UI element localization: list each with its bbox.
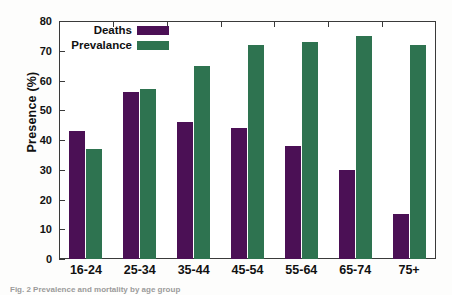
y-tick-label: 10 [22,223,52,235]
bars-layer [59,21,436,259]
bar-deaths-35-44 [177,122,193,259]
bar-deaths-45-54 [231,128,247,259]
y-tick-label: 70 [22,45,52,57]
bar-prevalance-25-34 [140,89,156,259]
legend-item-prevalence: Prevalance [64,39,169,51]
legend-label-deaths: Deaths [64,24,132,36]
y-tick-label: 30 [22,164,52,176]
bar-prevalance-65-74 [356,36,372,259]
bar-prevalance-55-64 [302,42,318,259]
y-tick-label: 40 [22,134,52,146]
y-tick-label: 0 [22,253,52,265]
y-tick-label: 60 [22,75,52,87]
legend-item-deaths: Deaths [64,24,169,36]
chart-legend: Deaths Prevalance [64,24,169,51]
figure-container: Presence (%) 01020304050607080 16-2425-3… [0,0,452,295]
legend-swatch-prevalence-icon [137,41,169,50]
figure-caption: Fig. 2 Prevalence and mortality by age g… [10,285,440,295]
legend-swatch-deaths-icon [137,26,169,35]
bar-deaths-55-64 [285,146,301,259]
bar-deaths-65-74 [339,170,355,259]
y-tick-label: 20 [22,194,52,206]
bar-deaths-25-34 [123,92,139,259]
y-tick-mark [59,259,65,260]
bar-deaths-16-24 [69,131,85,259]
bar-prevalance-75+ [410,45,426,259]
bar-prevalance-45-54 [248,45,264,259]
y-tick-label: 80 [22,15,52,27]
bar-prevalance-35-44 [194,66,210,259]
x-tick-label-75+: 75+ [374,263,444,277]
bar-deaths-75+ [393,214,409,259]
bar-prevalance-16-24 [86,149,102,259]
y-tick-label: 50 [22,104,52,116]
legend-label-prevalence: Prevalance [64,39,132,51]
